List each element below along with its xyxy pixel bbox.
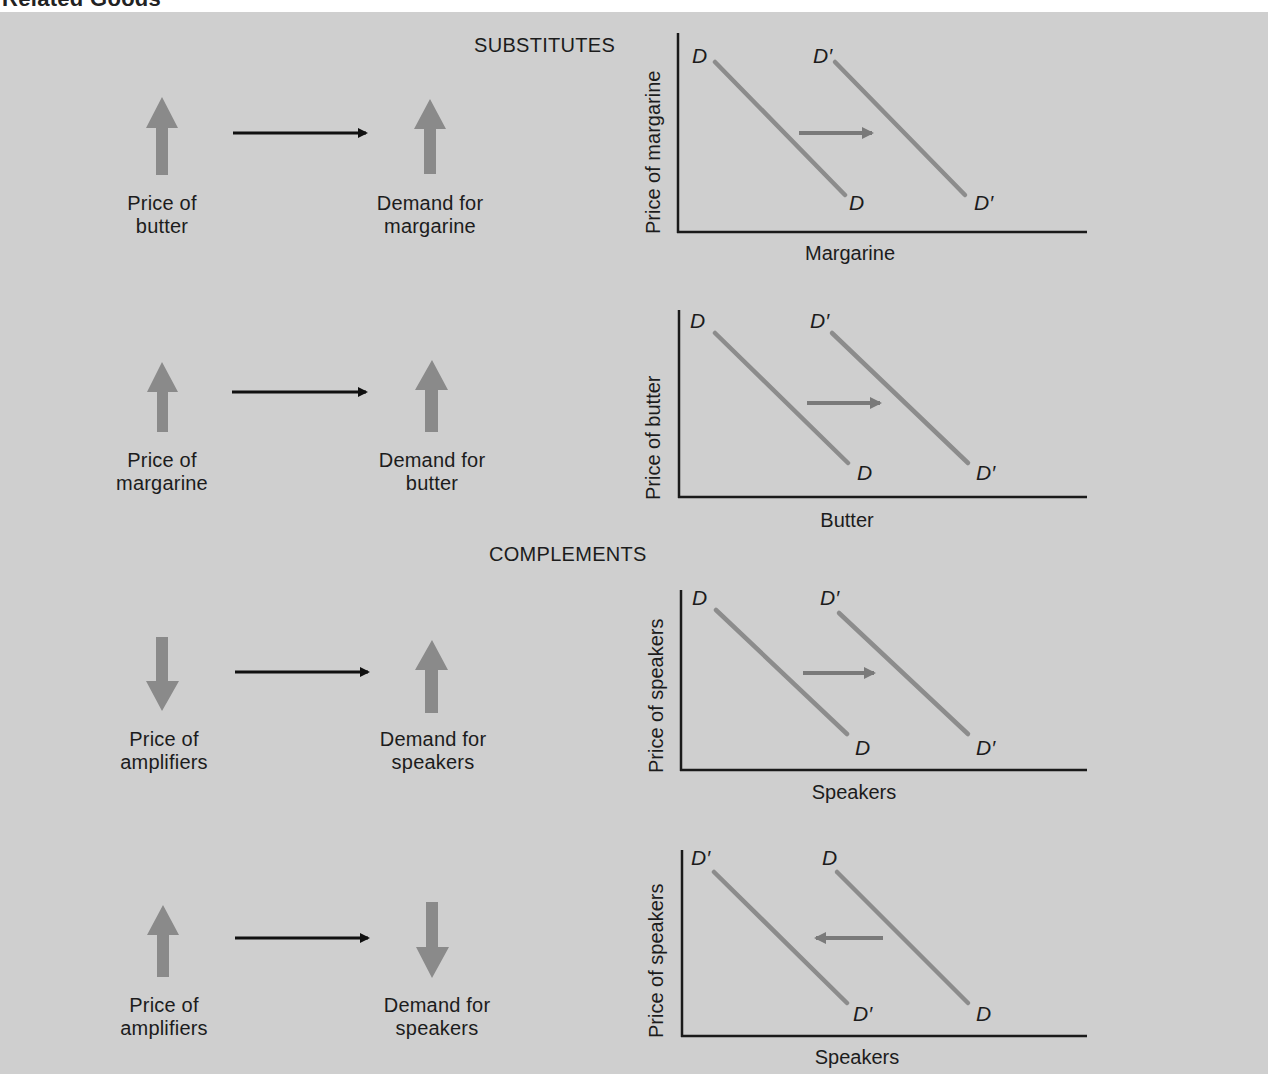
row-1-cause-up-arrow-icon: [146, 97, 178, 175]
row-1-effect-up-arrow-icon: [414, 99, 446, 174]
graph-3-label-d-prime-bottom: D′: [976, 736, 995, 760]
graph-2-x-axis-label: Butter: [747, 509, 947, 532]
graph-1-curve-d: [715, 62, 845, 195]
row-1-effect-label: Demand for margarine: [350, 192, 510, 238]
graph-3-label-d-prime-top: D′: [820, 586, 839, 610]
row-3-effect-up-arrow-icon: [415, 640, 448, 713]
graph-1-label-d-top: D: [692, 44, 707, 68]
graph-1-label-d-prime-bottom: D′: [974, 191, 993, 215]
row-3-cause-label: Price of amplifiers: [94, 728, 234, 774]
row-4-cause-up-arrow-icon: [147, 905, 179, 977]
graph-3-axes: [680, 590, 1087, 771]
graph-2-label-d-prime-top: D′: [810, 309, 829, 333]
graph-3-label-d-bottom: D: [855, 736, 870, 760]
graph-4-axes: [681, 850, 1087, 1037]
graph-2-curve-d-prime: [832, 333, 968, 463]
graph-1-y-axis-label: Price of margarine: [642, 71, 665, 234]
row-2-effect-label: Demand for butter: [352, 449, 512, 495]
graph-3-x-axis-label: Speakers: [754, 781, 954, 804]
row-2-effect-up-arrow-icon: [415, 360, 448, 432]
graph-1-curve-d-prime: [835, 62, 965, 195]
graph-4-y-axis-label: Price of speakers: [645, 883, 668, 1038]
graph-3-y-axis-label: Price of speakers: [645, 618, 668, 773]
row-3-effect-label: Demand for speakers: [353, 728, 513, 774]
graph-2-label-d-prime-bottom: D′: [976, 461, 995, 485]
graph-2-axes: [678, 310, 1087, 498]
graph-1-label-d-bottom: D: [849, 191, 864, 215]
graph-4-label-d-prime-bottom: D′: [853, 1002, 872, 1026]
graph-4-label-d-top: D: [822, 846, 837, 870]
graph-1-x-axis-label: Margarine: [750, 242, 950, 265]
row-2-cause-label: Price of margarine: [92, 449, 232, 495]
graph-2-y-axis-label: Price of butter: [642, 375, 665, 500]
graph-4-label-d-bottom: D: [976, 1002, 991, 1026]
diagram-canvas: [0, 0, 1276, 1074]
graph-4-label-d-prime-top: D′: [691, 846, 710, 870]
graph-4-x-axis-label: Speakers: [757, 1046, 957, 1069]
graph-2-curve-d: [715, 333, 848, 463]
graph-1-label-d-prime-top: D′: [813, 44, 832, 68]
graph-1-axes: [677, 33, 1087, 233]
row-2-cause-up-arrow-icon: [147, 362, 178, 432]
row-1-cause-label: Price of butter: [92, 192, 232, 238]
row-4-effect-label: Demand for speakers: [357, 994, 517, 1040]
row-3-cause-down-arrow-icon: [146, 637, 179, 711]
graph-2-label-d-top: D: [690, 309, 705, 333]
graph-3-label-d-top: D: [692, 586, 707, 610]
row-4-effect-down-arrow-icon: [416, 902, 449, 978]
graph-2-label-d-bottom: D: [857, 461, 872, 485]
row-4-cause-label: Price of amplifiers: [94, 994, 234, 1040]
